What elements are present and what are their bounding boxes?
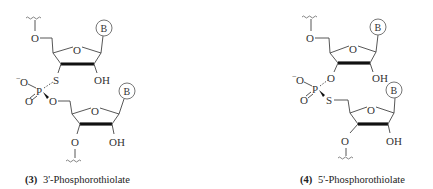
atom-o-5prime: O (306, 32, 314, 44)
atom-o-double: O (25, 95, 33, 107)
base-label-2: B (391, 85, 398, 96)
wavy-bond-top (302, 16, 317, 18)
caption-4: (4) 5'-Phosphorothiolate (300, 174, 405, 186)
atom-ring-o-1: O (73, 44, 81, 56)
atom-ring-o-2: O (91, 105, 99, 117)
atom-o-ester: O (49, 95, 57, 107)
figure-canvas: O O B S OH − O P O O O (0, 0, 433, 189)
caption-3: (3) 3'-Phosphorothiolate (25, 174, 130, 186)
wavy-bond-top (26, 17, 41, 19)
atom-o-3prime: O (71, 136, 79, 148)
atom-o-3prime-bottom: O (341, 135, 349, 147)
atom-s-bridge: S (326, 94, 332, 106)
atom-oh-1: OH (372, 72, 388, 84)
atom-oh-1: OH (94, 74, 110, 86)
base-label-2: B (124, 86, 131, 97)
atom-o-3prime: O (327, 72, 335, 84)
structure-3-prime-phosphorothiolate: O O B S OH − O P O O O (16, 17, 135, 186)
atom-o-5prime: O (31, 32, 39, 44)
atom-oh-2: OH (386, 135, 402, 147)
atom-o-minus: O (296, 74, 304, 86)
atom-o-minus: O (20, 76, 28, 88)
atom-oh-2: OH (109, 136, 125, 148)
wedge-bond (319, 90, 325, 97)
atom-p: P (36, 85, 42, 97)
base-label-1: B (375, 22, 382, 33)
atom-p: P (312, 83, 318, 95)
atom-ring-o-1: O (349, 43, 357, 55)
structure-5-prime-phosphorothiolate: O O B O OH − O P O S O (292, 16, 405, 186)
wavy-bond-bottom (66, 160, 81, 162)
atom-o-double: O (300, 94, 308, 106)
wavy-bond-bottom (338, 157, 353, 159)
atom-s-bridge: S (53, 74, 59, 86)
atom-ring-o-2: O (367, 104, 375, 116)
base-label-1: B (101, 23, 108, 34)
